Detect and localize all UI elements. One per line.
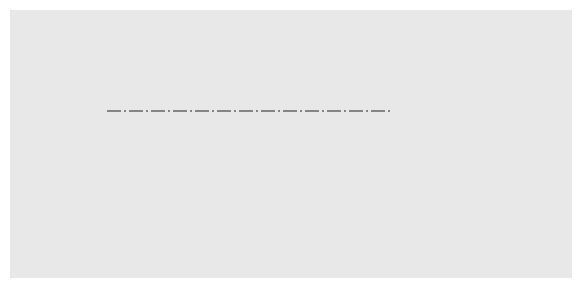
thread-cutting-diagram [0, 0, 584, 305]
